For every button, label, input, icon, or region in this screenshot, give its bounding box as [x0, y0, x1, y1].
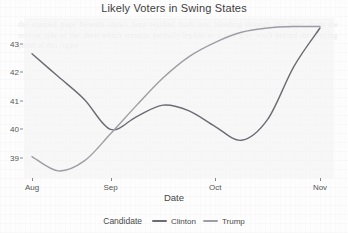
legend-item-trump[interactable]: Trump [203, 217, 245, 226]
y-axis-tick-mark [20, 43, 23, 44]
page-title: Likely Voters in Swing States [0, 2, 348, 14]
plot-panel [24, 18, 334, 178]
legend-title: Candidate [103, 216, 142, 226]
y-axis-tick-mark [20, 158, 23, 159]
x-axis-tick-mark [32, 178, 33, 181]
y-axis-tick-mark [20, 100, 23, 101]
legend-swatch-trump [203, 220, 218, 222]
y-axis-tick-label: 39 [0, 154, 19, 163]
legend-label-clinton: Clinton [171, 217, 196, 226]
x-axis-title: Date [0, 192, 348, 203]
x-axis-tick-label: Nov [313, 183, 327, 192]
y-axis-tick-label: 43 [0, 39, 19, 48]
line-series-trump [32, 26, 320, 170]
legend-label-trump: Trump [222, 217, 245, 226]
legend-swatch-clinton [152, 220, 167, 222]
y-axis-tick-mark [20, 129, 23, 130]
y-axis-tick-label: 42 [0, 68, 19, 77]
legend-item-clinton[interactable]: Clinton [152, 217, 196, 226]
line-series-clinton [32, 28, 320, 140]
y-axis-tick-label: 40 [0, 125, 19, 134]
x-axis-tick-label: Oct [209, 183, 221, 192]
x-axis-tick-label: Aug [25, 183, 39, 192]
x-axis-tick-mark [320, 178, 321, 181]
plot-area [24, 18, 334, 178]
y-axis-tick-label: 41 [0, 96, 19, 105]
x-axis-tick-mark [215, 178, 216, 181]
y-axis-tick-mark [20, 72, 23, 73]
x-axis-tick-mark [111, 178, 112, 181]
chart-legend: Candidate Clinton Trump [0, 216, 348, 226]
x-axis-tick-label: Sep [103, 183, 117, 192]
chart-root: the scanned page beneath shows faint res… [0, 0, 348, 233]
